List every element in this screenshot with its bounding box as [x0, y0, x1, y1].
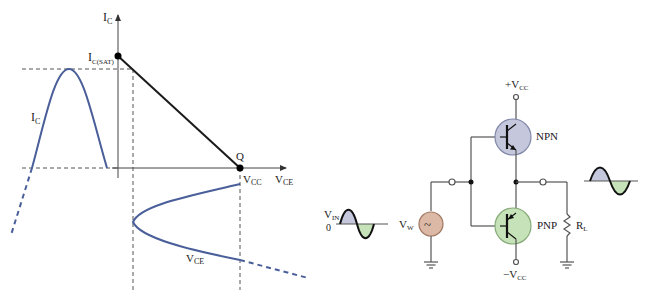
load-line-graph: IC IC(SAT) Q VCC VCE IC VCE [11, 10, 308, 290]
q-label: Q [236, 150, 244, 162]
source-label: VW [399, 218, 414, 232]
minus-vcc-label: −VCC [503, 268, 527, 282]
pnp-transistor [495, 208, 531, 244]
output-waveform [584, 168, 638, 195]
input-terminal [449, 179, 455, 185]
ic-waveform-extension [11, 168, 32, 235]
vce-curve-label: VCE [186, 252, 204, 266]
load-label: RL [576, 219, 588, 233]
vin-label: VIN [324, 208, 339, 222]
diagram-canvas: IC IC(SAT) Q VCC VCE IC VCE VIN 0 ~ VW [0, 0, 652, 297]
vcc-label: VCC [243, 173, 262, 187]
npn-label: NPN [536, 130, 558, 142]
ground-icon [424, 262, 438, 268]
ic-axis-label: IC [103, 10, 112, 26]
vce-axis-label: VCE [275, 173, 293, 187]
ic-waveform [32, 69, 107, 168]
load-line [118, 56, 240, 168]
plus-vcc-label: +VCC [505, 78, 529, 92]
output-terminal [540, 179, 546, 185]
pnp-label: PNP [537, 219, 557, 231]
vce-waveform-extension [240, 260, 308, 278]
zero-label: 0 [326, 222, 331, 233]
ic-curve-label: IC [31, 110, 40, 126]
minus-vcc-terminal [514, 260, 519, 265]
base-junction [469, 180, 474, 185]
load-ground-icon [560, 262, 574, 268]
plus-vcc-terminal [514, 95, 519, 100]
q-point [237, 165, 244, 172]
load-resistor [564, 214, 570, 236]
input-waveform [336, 210, 388, 239]
ic-sat-point [115, 53, 122, 60]
push-pull-circuit: VIN 0 ~ VW +VCC [324, 78, 638, 282]
npn-transistor [495, 119, 531, 155]
ac-source-icon: ~ [424, 217, 431, 232]
vce-waveform [133, 184, 240, 260]
ic-sat-label: IC(SAT) [88, 50, 114, 66]
